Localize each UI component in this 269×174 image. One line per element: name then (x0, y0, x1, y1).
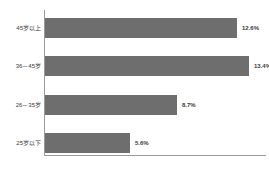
bar-row: 25岁以下 5.6% (0, 133, 269, 153)
value-axis-baseline (44, 155, 266, 156)
category-label: 45岁以上 (16, 24, 41, 32)
value-label: 5.6% (135, 139, 149, 147)
bar-row: 26－35岁 8.7% (0, 95, 269, 115)
plot-area: 45岁以上 12.6% 36－45岁 13.4% 26－35岁 8.7% 25岁… (0, 0, 269, 174)
value-label: 13.4% (254, 62, 269, 70)
bar-segment[interactable] (45, 95, 177, 115)
bar-segment[interactable] (45, 133, 130, 153)
category-label: 25岁以下 (16, 139, 41, 147)
value-label: 12.6% (242, 24, 259, 32)
category-label: 36－45岁 (16, 62, 41, 70)
bar-row: 36－45岁 13.4% (0, 56, 269, 76)
bar-segment[interactable] (45, 56, 249, 76)
bar-segment[interactable] (45, 18, 237, 38)
category-axis-line (44, 10, 45, 156)
category-label: 26－35岁 (16, 101, 41, 109)
value-label: 8.7% (182, 101, 196, 109)
bar-chart: 45岁以上 12.6% 36－45岁 13.4% 26－35岁 8.7% 25岁… (0, 0, 269, 174)
bar-row: 45岁以上 12.6% (0, 18, 269, 38)
